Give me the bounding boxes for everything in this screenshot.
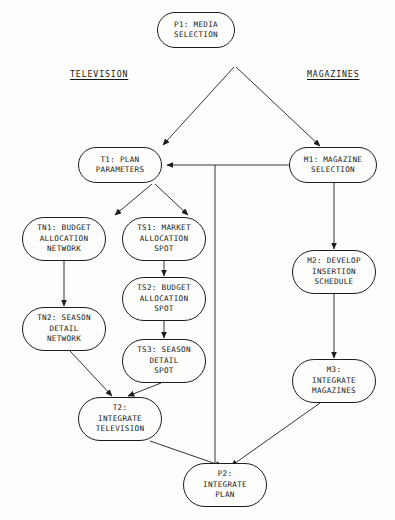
node-m2-develop-insertion-schedule[interactable]: M2: DEVELOP INSERTION SCHEDULE: [292, 250, 376, 294]
node-ts2-label: TS2: BUDGET ALLOCATION SPOT: [134, 283, 194, 315]
node-ts3-label: TS3: SEASON DETAIL SPOT: [134, 345, 194, 377]
node-ts2-budget-allocation-spot[interactable]: TS2: BUDGET ALLOCATION SPOT: [122, 277, 206, 321]
node-m2-label: M2: DEVELOP INSERTION SCHEDULE: [304, 256, 364, 288]
node-t2-integrate-television[interactable]: T2: INTEGRATE TELEVISION: [78, 397, 162, 441]
node-t1-plan-parameters[interactable]: T1: PLAN PARAMETERS: [78, 147, 162, 183]
edge-t1-to-ts1: [155, 184, 188, 215]
column-header-magazines: MAGAZINES: [307, 69, 359, 79]
flowchart-canvas: TELEVISION MAGAZINES P1: MEDIA SELECTION…: [0, 0, 395, 520]
column-header-television: TELEVISION: [70, 69, 128, 79]
edge-ts3-to-t2: [128, 383, 161, 396]
node-m1-magazine-selection[interactable]: M1: MAGAZINE SELECTION: [289, 147, 377, 183]
node-p1-label: P1: MEDIA SELECTION: [171, 20, 221, 41]
node-ts3-season-detail-spot[interactable]: TS3: SEASON DETAIL SPOT: [122, 339, 206, 383]
edge-t1-to-tn1: [115, 184, 152, 215]
node-tn2-season-detail-network[interactable]: TN2: SEASON DETAIL NETWORK: [22, 307, 106, 351]
node-m1-label: M1: MAGAZINE SELECTION: [301, 155, 365, 176]
node-tn1-label: TN1: BUDGET ALLOCATION NETWORK: [34, 223, 94, 255]
node-ts1-label: TS1: MARKET ALLOCATION SPOT: [134, 223, 194, 255]
edge-tn2-to-t2: [70, 351, 112, 396]
node-m3-label: M3: INTEGRATE MAGAZINES: [309, 365, 359, 397]
node-tn2-label: TN2: SEASON DETAIL NETWORK: [34, 313, 94, 345]
node-p2-integrate-plan[interactable]: P2: INTEGRATE PLAN: [183, 463, 267, 507]
edge-p1-to-t1: [163, 67, 234, 145]
node-ts1-market-allocation-spot[interactable]: TS1: MARKET ALLOCATION SPOT: [122, 217, 206, 261]
node-p2-label: P2: INTEGRATE PLAN: [200, 469, 250, 501]
node-p1-media-selection[interactable]: P1: MEDIA SELECTION: [157, 12, 235, 48]
edge-m3-to-p2: [231, 403, 320, 466]
node-t2-label: T2: INTEGRATE TELEVISION: [93, 403, 148, 435]
node-tn1-budget-allocation-network[interactable]: TN1: BUDGET ALLOCATION NETWORK: [22, 217, 106, 261]
node-m3-integrate-magazines[interactable]: M3: INTEGRATE MAGAZINES: [292, 359, 376, 403]
node-t1-label: T1: PLAN PARAMETERS: [93, 155, 148, 176]
